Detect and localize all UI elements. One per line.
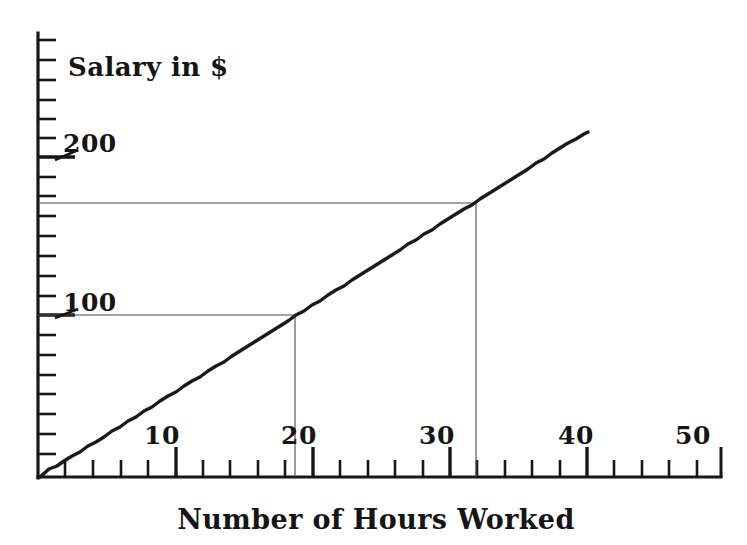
- y-tick-label-200: 200: [63, 129, 117, 158]
- chart-canvas: 200 100 10 20 30 40 50 Salary in $ Numbe…: [0, 0, 747, 545]
- y-axis-minor-ticks: [38, 40, 56, 454]
- axis-group: [38, 33, 721, 478]
- x-tick-label-10: 10: [144, 421, 180, 450]
- chart-title: Salary in $: [68, 52, 229, 82]
- salary-vs-hours-line-chart: 200 100 10 20 30 40 50 Salary in $ Numbe…: [0, 0, 747, 545]
- y-tick-label-100: 100: [63, 288, 117, 317]
- x-tick-label-50: 50: [675, 421, 711, 450]
- x-axis-minor-ticks: [65, 460, 697, 477]
- x-axis-title: Number of Hours Worked: [177, 504, 574, 535]
- x-tick-label-40: 40: [558, 421, 594, 450]
- x-tick-label-30: 30: [419, 421, 455, 450]
- x-tick-label-20: 20: [281, 421, 317, 450]
